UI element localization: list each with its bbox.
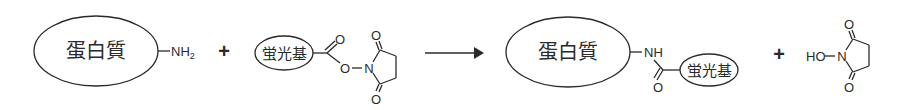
plus-sign-2: + — [773, 43, 785, 65]
reaction-arrow — [425, 47, 484, 59]
fluorophore-nhs-ester: 蛍光基 O O N O O — [255, 28, 396, 107]
ring-oxygen-bottom: O — [371, 92, 381, 107]
carbonyl-oxygen: O — [335, 32, 345, 47]
arrowhead-icon — [474, 47, 484, 59]
ring-oxygen-top: O — [371, 28, 381, 43]
protein-label: 蛋白質 — [66, 39, 126, 63]
amide-nh: NH — [644, 45, 663, 60]
ester-oxygen: O — [340, 61, 350, 76]
nhs-nitrogen: N — [837, 49, 846, 64]
fluorophore-label: 蛍光基 — [262, 45, 307, 63]
protein-reactant: 蛋白質 NH2 — [34, 16, 195, 86]
nhs-oxygen-top: O — [844, 17, 854, 32]
amine-group: NH2 — [171, 44, 195, 61]
amide-oxygen: O — [653, 80, 663, 95]
protein-fluorophore-conjugate: 蛋白質 NH O 蛍光基 — [506, 17, 738, 95]
succinimide-nitrogen: N — [364, 61, 373, 76]
product-protein-label: 蛋白質 — [538, 40, 598, 64]
nhs-oxygen-bottom: O — [844, 80, 854, 95]
plus-sign-1: + — [218, 40, 230, 62]
n-hydroxysuccinimide: HO N O O — [806, 17, 869, 95]
reaction-diagram: 蛋白質 NH2 + 蛍光基 O O N O O — [0, 0, 904, 110]
hydroxyl-ho: HO — [806, 49, 826, 64]
product-fluorophore-label: 蛍光基 — [687, 62, 732, 80]
